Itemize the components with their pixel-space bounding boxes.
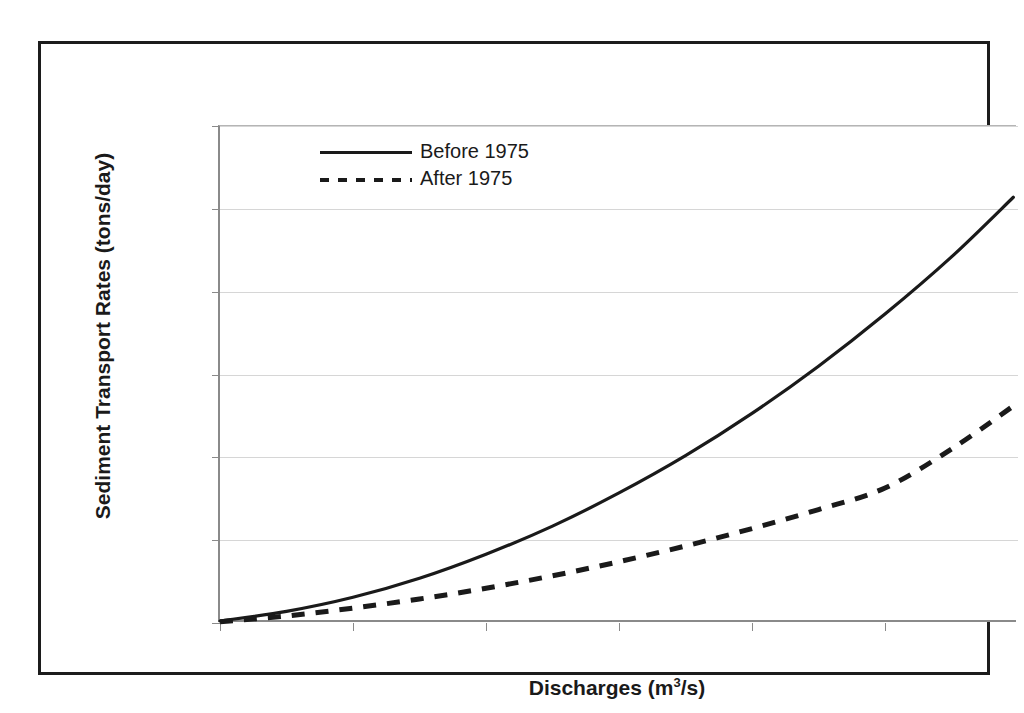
y-tick-mark <box>212 623 220 624</box>
legend-label: After 1975 <box>420 167 512 190</box>
x-tick-mark <box>619 623 620 631</box>
figure-border: Sediment Transport Rates (tons/day) Disc… <box>38 41 990 675</box>
legend-solid-line-icon <box>320 145 412 159</box>
x-axis-title: Discharges (m3/s) <box>218 676 1016 700</box>
x-axis-title-tail: /s) <box>681 676 706 699</box>
series-line-2 <box>220 406 1013 622</box>
y-tick-mark <box>212 126 220 127</box>
y-tick-mark <box>212 375 220 376</box>
plot-area: 050000100000150000200000250000300000 502… <box>218 125 1016 622</box>
legend-line-swatch <box>320 178 412 182</box>
y-tick-mark <box>212 209 220 210</box>
series-plot <box>220 126 1018 623</box>
chart-figure: Sediment Transport Rates (tons/day) Disc… <box>0 0 1024 713</box>
legend-item[interactable]: Before 1975 <box>320 138 650 165</box>
x-tick-mark <box>353 623 354 631</box>
x-tick-mark <box>486 623 487 631</box>
series-line-1 <box>220 197 1013 621</box>
x-tick-mark <box>752 623 753 631</box>
y-tick-mark <box>212 457 220 458</box>
x-axis-title-exponent: 3 <box>673 675 680 690</box>
legend-dashed-line-icon <box>320 172 412 186</box>
legend-item[interactable]: After 1975 <box>320 165 650 192</box>
chart-legend: Before 1975After 1975 <box>320 138 650 192</box>
y-tick-mark <box>212 540 220 541</box>
x-tick-mark <box>220 623 221 631</box>
x-axis-title-base: Discharges (m <box>529 676 674 699</box>
y-tick-mark <box>212 292 220 293</box>
legend-label: Before 1975 <box>420 140 529 163</box>
legend-line-swatch <box>320 151 412 154</box>
y-axis-title: Sediment Transport Rates (tons/day) <box>91 76 115 596</box>
x-tick-mark <box>885 623 886 631</box>
